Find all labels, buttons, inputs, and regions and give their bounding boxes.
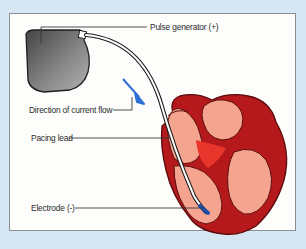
current-flow-leader-line bbox=[113, 97, 132, 110]
pulse-generator-icon bbox=[26, 30, 89, 92]
electrode-label: Electrode (-) bbox=[31, 202, 75, 213]
current-flow-label: Direction of current flow bbox=[29, 104, 112, 115]
pacing-lead-label: Pacing lead bbox=[31, 132, 73, 143]
pulse-generator-label: Pulse generator (+) bbox=[150, 21, 218, 32]
current-flow-arrow-icon bbox=[123, 79, 144, 104]
